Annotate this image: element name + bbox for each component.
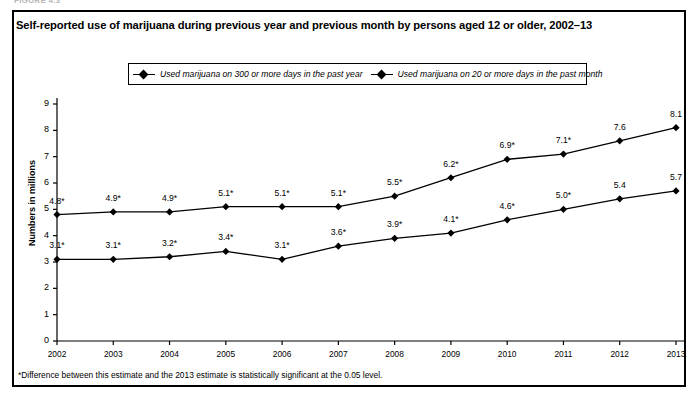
diamond-marker-icon — [371, 69, 393, 79]
legend-item-past-year[interactable]: Used marijuana on 300 or more days in th… — [129, 69, 367, 79]
page-title: Self-reported use of marijuana during pr… — [16, 19, 592, 31]
legend-label-past-month: Used marijuana on 20 or more days in the… — [398, 69, 603, 79]
legend-item-past-month[interactable]: Used marijuana on 20 or more days in the… — [367, 69, 607, 79]
diamond-marker-icon — [133, 69, 155, 79]
legend-label-past-year: Used marijuana on 300 or more days in th… — [160, 69, 363, 79]
figure-page: FIGURE 4.3 Self-reported use of marijuan… — [0, 0, 698, 393]
footnote: *Difference between this estimate and th… — [18, 370, 382, 380]
figure-number: FIGURE 4.3 — [14, 0, 61, 5]
chart-legend: Used marijuana on 300 or more days in th… — [128, 63, 587, 85]
